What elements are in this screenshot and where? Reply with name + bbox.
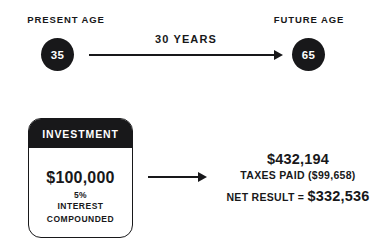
result-arrow-head-icon: [198, 172, 207, 182]
present-age-value: 35: [51, 49, 65, 61]
net-result-line: NET RESULT = $332,536: [209, 184, 387, 207]
investment-card-header: INVESTMENT: [29, 119, 132, 148]
result-arrow: [148, 172, 207, 182]
future-age-value: 65: [302, 49, 316, 61]
investment-interest-line-2: COMPOUNDED: [47, 214, 114, 225]
future-age-circle: 65: [292, 38, 325, 71]
net-result-value: $332,536: [307, 188, 369, 204]
timeline-arrow-head-icon: [274, 50, 283, 60]
timeline-arrow: [89, 50, 283, 60]
present-age-label: PRESENT AGE: [16, 14, 116, 25]
taxes-paid-text: TAXES PAID ($99,658): [209, 168, 387, 184]
present-age-circle: 35: [41, 38, 74, 71]
future-age-label: FUTURE AGE: [259, 14, 359, 25]
investment-rate: 5%: [74, 190, 87, 200]
investment-card-body: $100,000 5% INTEREST COMPOUNDED: [29, 148, 132, 237]
duration-label: 30 YEARS: [126, 33, 246, 45]
investment-interest-line-1: INTEREST: [57, 201, 103, 212]
timeline-arrow-line: [89, 54, 274, 56]
results-block: $432,194 TAXES PAID ($99,658) NET RESULT…: [209, 150, 387, 207]
gross-total-value: $432,194: [209, 150, 387, 168]
investment-principal: $100,000: [46, 169, 114, 187]
result-arrow-line: [148, 176, 198, 178]
investment-card: INVESTMENT $100,000 5% INTEREST COMPOUND…: [28, 118, 133, 238]
net-result-label: NET RESULT =: [226, 191, 307, 203]
infographic-canvas: PRESENT AGE 35 30 YEARS FUTURE AGE 65 IN…: [0, 0, 391, 250]
